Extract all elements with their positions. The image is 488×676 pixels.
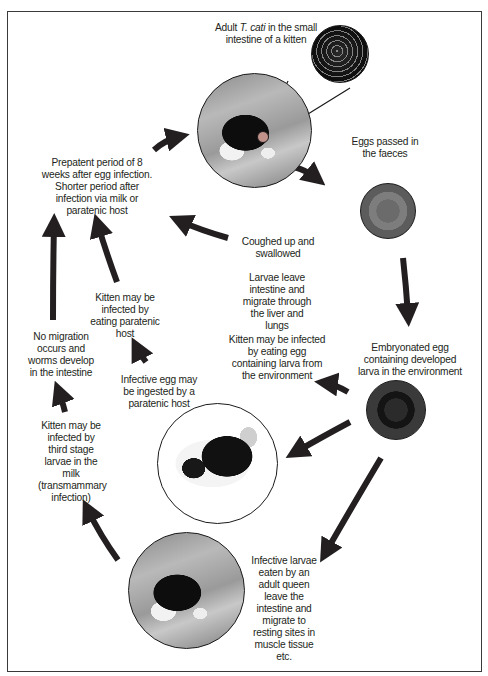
arrow-eggs-to-embryonated	[403, 258, 408, 315]
embryonated-egg-photo	[366, 380, 426, 440]
arrow-coughed-to-prepatent	[180, 221, 228, 238]
arrow-kitten-paratenic-to-prepatent	[98, 225, 117, 282]
arrow-mouse-to-kitten-paratenic	[137, 348, 146, 362]
kitten-photo	[197, 73, 312, 188]
label-coughed: Coughed up and swallowed	[238, 236, 318, 260]
label-larvae-migrate: Larvae leave intestine and migrate throu…	[238, 272, 316, 332]
label-kitten-egg: Kitten may be infected by eating egg con…	[228, 334, 326, 382]
label-embryonated: Embryonated egg containing developed lar…	[358, 342, 462, 378]
label-queen: Infective larvae eaten by an adult queen…	[250, 555, 318, 663]
label-eggs-passed: Eggs passed in the faeces	[350, 136, 420, 160]
arrow-embryonated-to-mouse	[296, 422, 350, 452]
arrow-prepatent-to-adult	[154, 137, 178, 150]
label-no-migration: No migration occurs and worms develop in…	[26, 331, 96, 379]
arrow-no-migration-to-prepatent	[53, 225, 54, 320]
egg-photo	[360, 183, 416, 239]
species-name: T. cati	[240, 22, 265, 33]
arrow-queen-to-transmammary	[88, 510, 118, 560]
arrow-transmammary-to-no-migration	[59, 392, 65, 412]
label-transmammary: Kitten may be infected by third stage la…	[38, 420, 104, 504]
mouse-photo	[157, 403, 278, 524]
worms-inset-photo	[311, 25, 369, 83]
label-prepatent: Prepatent period of 8 weeks after egg in…	[38, 157, 156, 217]
arrow-embryonated-to-queen	[326, 458, 381, 552]
arrow-embryonated-to-kitten-egg	[326, 383, 348, 392]
adult-cat-photo	[128, 532, 245, 649]
zoom-location-marker	[257, 131, 269, 143]
label-paratenic-ingest: Infective egg may be ingested by a parat…	[120, 374, 198, 410]
label-kitten-paratenic: Kitten may be infected by eating paraten…	[88, 292, 162, 340]
